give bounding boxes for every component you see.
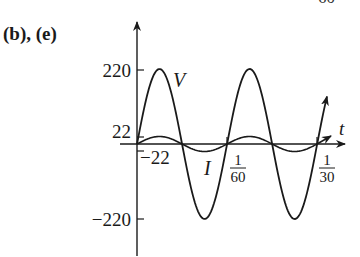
x-label-1-60-den: 60 bbox=[231, 169, 246, 185]
v-label: V bbox=[173, 69, 188, 91]
x-label-1-60-num: 1 bbox=[234, 152, 242, 168]
x-label-1-30-den: 30 bbox=[320, 169, 335, 185]
v-curve-arrow bbox=[317, 97, 327, 145]
t-label: t bbox=[339, 118, 345, 139]
chart: 220 22 −22 −220 V I t 1 60 1 30 bbox=[0, 0, 360, 257]
y-label-220: 220 bbox=[103, 60, 132, 81]
x-label-1-30-num: 1 bbox=[323, 152, 331, 168]
i-label: I bbox=[203, 157, 212, 179]
y-label-neg22: −22 bbox=[140, 147, 170, 168]
y-label-22: 22 bbox=[112, 121, 131, 142]
y-label-neg220: −220 bbox=[92, 209, 131, 230]
